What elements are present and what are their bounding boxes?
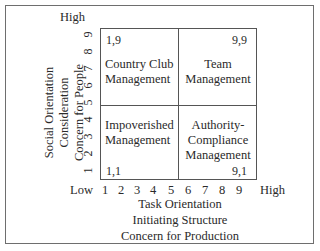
quadrant-line: Compliance bbox=[179, 133, 257, 148]
coord-1-9: 1,9 bbox=[106, 33, 121, 48]
x-axis-title-line-2: Initiating Structure bbox=[80, 212, 280, 228]
x-axis-title: Task Orientation Initiating Structure Co… bbox=[80, 196, 280, 244]
quadrant-line: Management bbox=[105, 72, 173, 87]
quadrant-line: Management bbox=[179, 148, 257, 163]
coord-9-1: 9,1 bbox=[232, 164, 247, 179]
quadrant-line: Country Club bbox=[105, 57, 173, 72]
y-tick-5: 5 bbox=[81, 98, 96, 108]
quadrant-line: Authority- bbox=[179, 118, 257, 133]
coord-9-9: 9,9 bbox=[232, 33, 247, 48]
quadrant-line: Management bbox=[105, 133, 174, 148]
quadrant-country-club: Country Club Management bbox=[105, 57, 173, 87]
quadrant-line: Management bbox=[179, 72, 257, 87]
quadrant-impoverished: Impoverished Management bbox=[105, 118, 174, 148]
y-tick-2: 2 bbox=[81, 149, 96, 159]
x-axis-title-line-1: Task Orientation bbox=[80, 196, 280, 212]
grid-horizontal-divider bbox=[100, 105, 257, 106]
y-tick-6: 6 bbox=[81, 81, 96, 91]
coord-1-1: 1,1 bbox=[106, 164, 121, 179]
y-tick-8: 8 bbox=[81, 47, 96, 57]
quadrant-line: Impoverished bbox=[105, 118, 174, 133]
y-tick-4: 4 bbox=[81, 115, 96, 125]
y-tick-3: 3 bbox=[81, 132, 96, 142]
quadrant-authority-compliance: Authority- Compliance Management bbox=[179, 118, 257, 163]
y-axis-title-line-2: Consideration bbox=[57, 23, 72, 203]
y-tick-9: 9 bbox=[81, 30, 96, 40]
x-axis-title-line-3: Concern for Production bbox=[80, 228, 280, 244]
y-tick-1: 1 bbox=[81, 166, 96, 176]
y-tick-7: 7 bbox=[81, 64, 96, 74]
quadrant-team: Team Management bbox=[179, 57, 257, 87]
y-axis-title-line-1: Social Orientation bbox=[42, 23, 57, 203]
quadrant-line: Team bbox=[179, 57, 257, 72]
